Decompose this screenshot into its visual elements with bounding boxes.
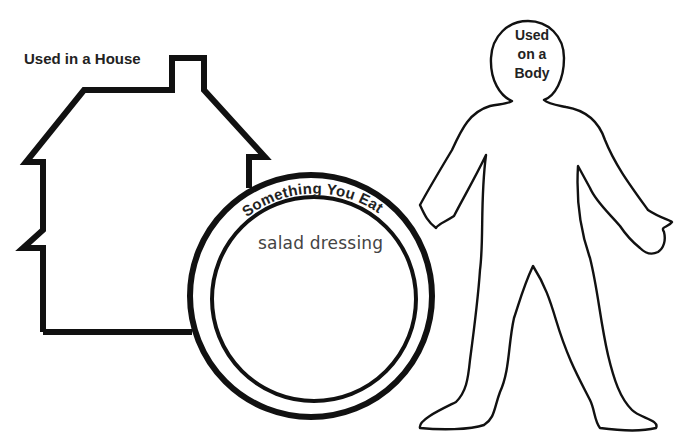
body-label-line: Body [504,64,560,83]
plate-entry-text[interactable]: salad dressing [258,233,383,253]
plate-outline: Something You Eat [190,175,432,417]
house-label: Used in a House [24,50,141,67]
body-label: Used on a Body [504,26,560,83]
body-label-line: Used [504,26,560,45]
body-label-line: on a [504,45,560,64]
